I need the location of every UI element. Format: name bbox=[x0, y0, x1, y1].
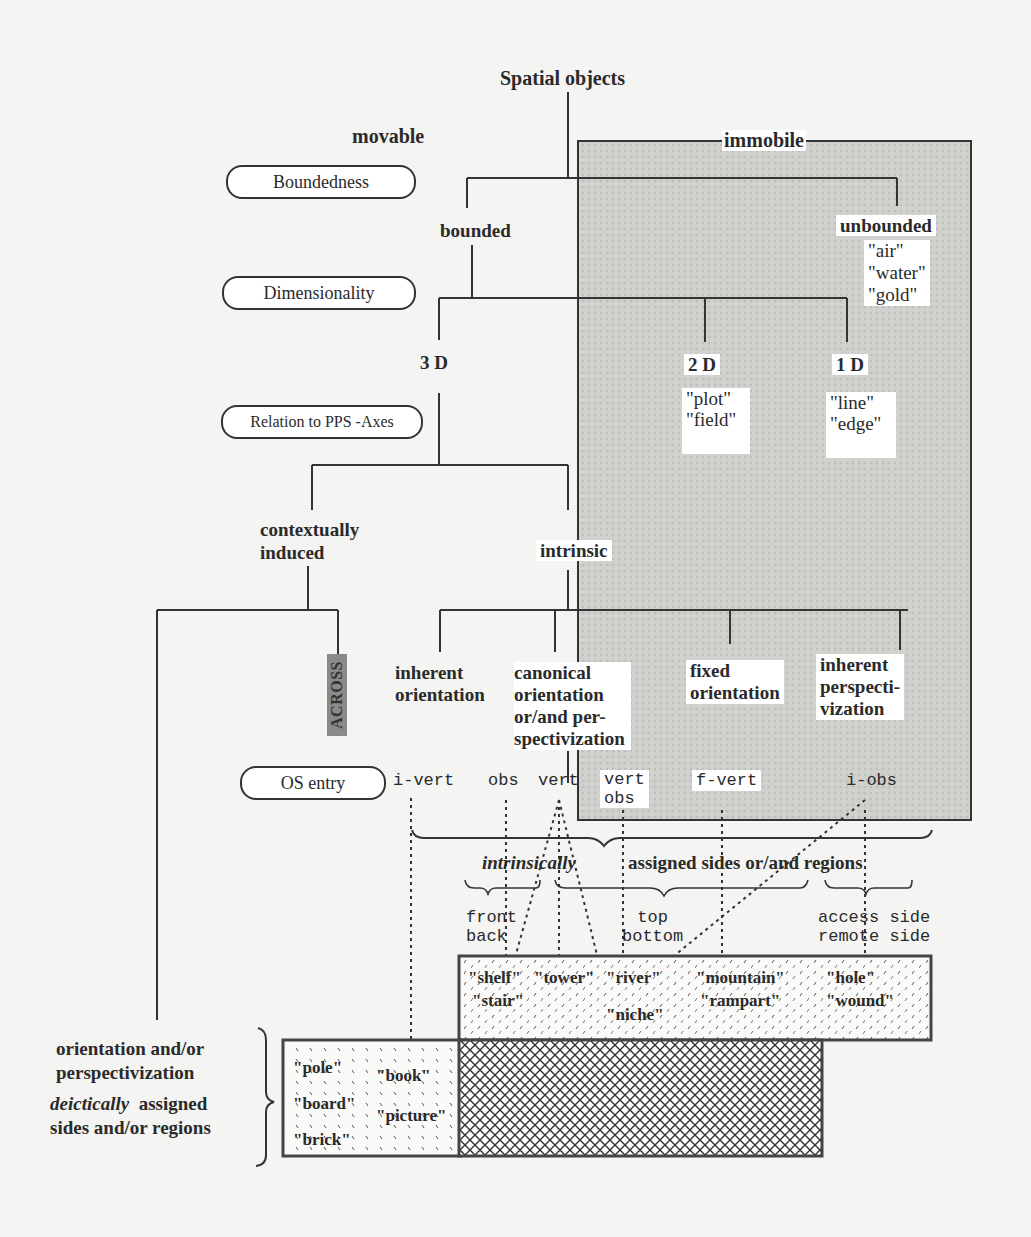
example-wound: "wound" bbox=[826, 990, 894, 1011]
example-river: "river" bbox=[606, 967, 661, 988]
dim-1d-examples: "line" "edge" bbox=[826, 392, 896, 458]
example-tower: "tower" bbox=[534, 967, 594, 988]
intrinsic-label: intrinsic bbox=[536, 540, 612, 561]
movable-label: movable bbox=[352, 126, 424, 147]
dim-3d-label: 3 D bbox=[420, 352, 448, 373]
dim-2d-examples: "plot" "field" bbox=[682, 388, 750, 454]
type-canonical-orientation: canonical orientation or/and per- specti… bbox=[514, 662, 631, 750]
top-bottom-label: top bottom bbox=[622, 908, 683, 946]
example-stair: "stair" bbox=[472, 990, 524, 1011]
front-back-label: front back bbox=[466, 908, 517, 946]
os-entry-i-vert: i-vert bbox=[393, 770, 454, 791]
root-label: Spatial objects bbox=[500, 68, 625, 89]
os-entry-vert: vert bbox=[538, 770, 579, 791]
example-hole: "hole" bbox=[826, 967, 875, 988]
criterion-dimensionality: Dimensionality bbox=[222, 276, 416, 310]
os-entry-obs: obs bbox=[488, 770, 519, 791]
unbounded-label: unbounded bbox=[836, 215, 936, 236]
criterion-boundedness: Boundedness bbox=[226, 165, 416, 199]
os-entry-f-vert: f-vert bbox=[692, 770, 761, 791]
criterion-os-entry: OS entry bbox=[240, 766, 386, 800]
os-entry-vert-obs: vert obs bbox=[600, 770, 649, 808]
deictic-assigned-label: deictically assigned sides and/or region… bbox=[50, 1092, 211, 1140]
example-rampart: "rampart" bbox=[700, 990, 780, 1011]
type-fixed-orientation: fixed orientation bbox=[686, 660, 784, 704]
example-mountain: "mountain" bbox=[696, 967, 785, 988]
example-shelf: "shelf" bbox=[468, 967, 521, 988]
criterion-relation-pps-axes: Relation to PPS -Axes bbox=[221, 405, 423, 439]
assigned-sides-label: assigned sides or/and regions bbox=[628, 852, 863, 873]
crosshatch-region bbox=[459, 1040, 822, 1156]
bounded-label: bounded bbox=[440, 220, 511, 241]
unbounded-examples: "air" "water" "gold" bbox=[864, 240, 930, 306]
deictic-orientation-label: orientation and/or perspectivization bbox=[56, 1037, 204, 1085]
access-remote-label: access side remote side bbox=[818, 908, 930, 946]
deictic-examples-col1: "pole" "board" "brick" bbox=[293, 1050, 355, 1158]
immobile-label: immobile bbox=[722, 130, 806, 151]
dim-2d-label: 2 D bbox=[684, 354, 720, 375]
type-inherent-orientation: inherent orientation bbox=[395, 662, 485, 706]
deictic-examples-col2: "book" "picture" bbox=[376, 1056, 447, 1136]
dim-1d-label: 1 D bbox=[832, 354, 868, 375]
type-inherent-perspectivization: inherent perspecti- vization bbox=[816, 654, 904, 720]
across-tag: ACROSS bbox=[327, 654, 347, 736]
intrinsically-label: intrinsically bbox=[482, 852, 576, 873]
os-entry-i-obs: i-obs bbox=[846, 770, 897, 791]
example-niche: "niche" bbox=[606, 1004, 664, 1025]
contextually-induced-label: contextually induced bbox=[260, 518, 359, 564]
